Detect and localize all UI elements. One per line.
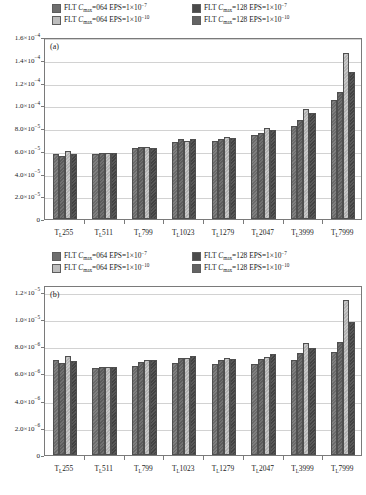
y-axis-tick-mark bbox=[41, 347, 44, 348]
bar-series-2 bbox=[178, 358, 184, 455]
legend-swatch-icon bbox=[192, 264, 201, 273]
bar-series-2 bbox=[99, 153, 105, 219]
x-axis-category-label: TL799 bbox=[134, 228, 153, 237]
x-axis-tick-mark bbox=[283, 456, 284, 460]
bar-series-4 bbox=[309, 348, 315, 455]
legend-item-1-a: FLT Cmax=064 EPS=1×10−7 bbox=[52, 2, 192, 14]
bar-series-3 bbox=[303, 109, 309, 219]
legend-item-label: FLT Cmax=064 EPS=1×10−10 bbox=[64, 262, 149, 274]
y-axis-tick-label: 6.0×10−5 bbox=[15, 148, 40, 156]
bar-series-1 bbox=[172, 363, 178, 455]
bar-group bbox=[125, 287, 165, 455]
legend-item-label: FLT Cmax=064 EPS=1×10−7 bbox=[64, 2, 147, 14]
bar-series-2 bbox=[258, 359, 264, 455]
y-axis-tick-mark bbox=[41, 129, 44, 130]
legend-item-3-a: FLT Cmax=064 EPS=1×10−10 bbox=[52, 14, 192, 26]
x-axis-category-label: TL1279 bbox=[212, 464, 234, 473]
y-axis-tick-label: 6.0×10−6 bbox=[15, 370, 40, 378]
bar-series-1 bbox=[251, 364, 257, 455]
y-axis-tick-label: 1.6×10−4 bbox=[15, 34, 40, 42]
bar-series-3 bbox=[264, 128, 270, 219]
panel-label-a: (a) bbox=[50, 42, 59, 51]
chart-panel-a: 02.0×10−54.0×10−56.0×10−58.0×10−51.0×10−… bbox=[0, 0, 366, 495]
bar-series-1 bbox=[172, 142, 178, 219]
legend-swatch-icon bbox=[52, 16, 61, 25]
y-axis-tick-label: 0 bbox=[37, 452, 41, 460]
x-axis-category-label: TL7999 bbox=[331, 228, 353, 237]
x-axis-tick-mark bbox=[84, 220, 85, 224]
bar-series-4 bbox=[230, 138, 236, 219]
legend-swatch-icon bbox=[192, 4, 201, 13]
bar-series-4 bbox=[150, 360, 156, 455]
bar-group bbox=[85, 39, 125, 219]
bar-series-1 bbox=[132, 148, 138, 219]
legend-swatch-icon bbox=[52, 4, 61, 13]
bar-series-3 bbox=[224, 137, 230, 219]
x-axis-tick-mark bbox=[163, 220, 164, 224]
y-axis-tick-mark bbox=[41, 402, 44, 403]
bar-series-3 bbox=[264, 357, 270, 455]
x-axis-tick-mark bbox=[84, 456, 85, 460]
y-axis-tick-label: 4.0×10−5 bbox=[15, 171, 40, 179]
legend-item-3-b: FLT Cmax=064 EPS=1×10−10 bbox=[52, 262, 192, 274]
legend-item-4-a: FLT Cmax=128 EPS=1×10−10 bbox=[192, 14, 342, 26]
legend-item-2-a: FLT Cmax=128 EPS=1×10−7 bbox=[192, 2, 342, 14]
y-axis-tick-mark bbox=[41, 84, 44, 85]
x-axis-tick-mark bbox=[322, 456, 323, 460]
x-axis-tick-mark bbox=[203, 220, 204, 224]
panel-label-b: (b) bbox=[50, 290, 59, 299]
x-axis-category-label: TL255 bbox=[54, 228, 73, 237]
bar-series-1 bbox=[291, 360, 297, 455]
y-axis-tick-mark bbox=[41, 293, 44, 294]
bar-series-2 bbox=[138, 147, 144, 219]
y-axis-tick-label: 4.0×10−6 bbox=[15, 398, 40, 406]
bar-series-4 bbox=[230, 359, 236, 455]
y-axis-tick-mark bbox=[41, 197, 44, 198]
bar-group bbox=[284, 287, 324, 455]
x-axis-tick-mark bbox=[203, 456, 204, 460]
bar-series-1 bbox=[132, 366, 138, 455]
bar-group bbox=[204, 287, 244, 455]
y-axis-tick-label: 1.4×10−4 bbox=[15, 57, 40, 65]
bar-series-2 bbox=[297, 353, 303, 455]
gridline bbox=[45, 403, 361, 404]
bar-series-2 bbox=[218, 360, 224, 455]
chart-panel-b: 02.0×10−64.0×10−66.0×10−68.0×10−61.0×10−… bbox=[0, 0, 366, 495]
gridline bbox=[45, 321, 361, 322]
plot-area-b bbox=[44, 286, 362, 456]
gridline bbox=[45, 85, 361, 86]
bar-series-2 bbox=[178, 139, 184, 219]
y-axis-tick-label: 1.2×10−5 bbox=[15, 289, 40, 297]
y-axis-tick-mark bbox=[41, 61, 44, 62]
bar-series-3 bbox=[144, 147, 150, 219]
gridline bbox=[45, 348, 361, 349]
bar-series-1 bbox=[212, 141, 218, 219]
bar-group bbox=[244, 39, 284, 219]
gridline bbox=[45, 153, 361, 154]
x-axis-category-label: TL7999 bbox=[331, 464, 353, 473]
plot-area-a bbox=[44, 38, 362, 220]
bar-series-1 bbox=[212, 364, 218, 455]
legend-panel-a: FLT Cmax=064 EPS=1×10−7FLT Cmax=128 EPS=… bbox=[52, 2, 352, 26]
bar-series-4 bbox=[349, 72, 355, 219]
bar-group bbox=[204, 39, 244, 219]
bar-group bbox=[45, 287, 85, 455]
bar-series-1 bbox=[291, 126, 297, 219]
bar-series-4 bbox=[349, 322, 355, 455]
legend-swatch-icon bbox=[52, 252, 61, 261]
bar-series-1 bbox=[92, 154, 98, 219]
bar-series-3 bbox=[303, 343, 309, 455]
bar-series-2 bbox=[59, 156, 65, 219]
y-axis-tick-label: 1.2×10−4 bbox=[15, 80, 40, 88]
y-axis-tick-mark bbox=[41, 220, 44, 221]
bar-series-2 bbox=[59, 363, 65, 455]
y-axis-tick-mark bbox=[41, 38, 44, 39]
bar-series-2 bbox=[218, 139, 224, 219]
legend-item-label: FLT Cmax=064 EPS=1×10−7 bbox=[64, 250, 147, 262]
bar-series-2 bbox=[258, 133, 264, 219]
x-axis-category-label: TL511 bbox=[94, 464, 113, 473]
legend-item-label: FLT Cmax=064 EPS=1×10−10 bbox=[64, 14, 149, 26]
x-axis-tick-mark bbox=[124, 456, 125, 460]
bar-series-3 bbox=[144, 360, 150, 455]
x-axis-category-label: TL799 bbox=[134, 464, 153, 473]
